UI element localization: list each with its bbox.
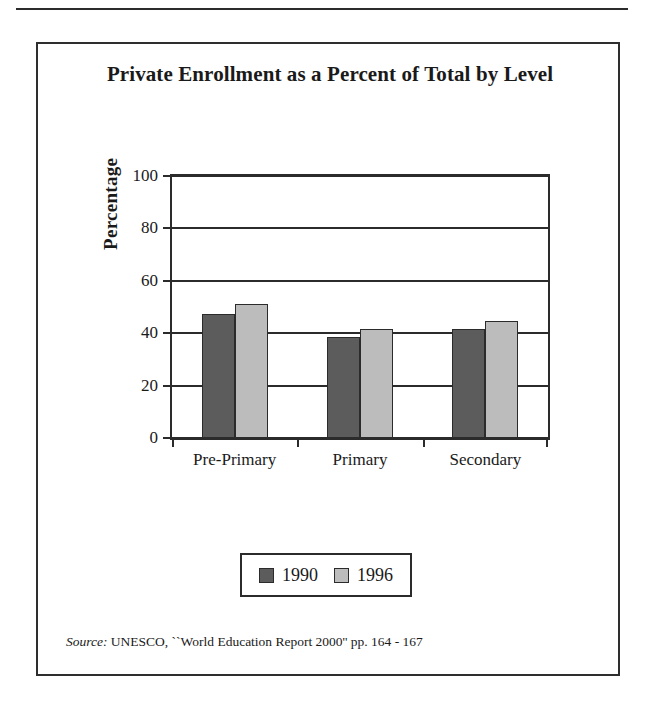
bar-pre-primary-1990	[202, 314, 235, 438]
chart-title: Private Enrollment as a Percent of Total…	[98, 60, 562, 88]
source-text: UNESCO, ``World Education Report 2000'' …	[111, 634, 423, 649]
y-tick-40	[163, 332, 172, 334]
legend-label-1996: 1996	[357, 566, 393, 584]
x-tick-end	[546, 438, 548, 447]
bar-primary-1996	[360, 329, 393, 438]
x-tick-0	[172, 438, 174, 447]
legend-swatch-icon-1996	[334, 568, 349, 583]
bars-layer	[172, 176, 548, 438]
y-tick-label-20: 20	[141, 376, 158, 396]
y-tick-100	[163, 175, 172, 177]
y-tick-label-40: 40	[141, 323, 158, 343]
bar-secondary-1996	[485, 321, 518, 438]
plot-area: 100806040200 Pre-PrimaryPrimarySecondary	[170, 174, 550, 440]
bar-primary-1990	[327, 337, 360, 438]
y-tick-60	[163, 280, 172, 282]
y-tick-80	[163, 227, 172, 229]
y-tick-label-100: 100	[133, 166, 159, 186]
x-category-label-secondary: Secondary	[449, 450, 521, 470]
x-category-label-pre-primary: Pre-Primary	[193, 450, 276, 470]
y-tick-label-0: 0	[150, 428, 159, 448]
chart-legend: 1990 1996	[240, 553, 412, 597]
y-axis-title: Percentage	[100, 158, 122, 250]
x-category-label-primary: Primary	[333, 450, 388, 470]
y-tick-label-80: 80	[141, 218, 158, 238]
x-tick-2	[423, 438, 425, 447]
legend-label-1990: 1990	[282, 566, 318, 584]
y-tick-20	[163, 385, 172, 387]
source-prefix: Source:	[66, 634, 107, 649]
legend-swatch-icon-1990	[259, 568, 274, 583]
bar-pre-primary-1996	[235, 304, 268, 438]
y-tick-0	[163, 437, 172, 439]
bar-secondary-1990	[452, 329, 485, 438]
page-top-rule	[16, 8, 628, 10]
source-note: Source: UNESCO, ``World Education Report…	[66, 634, 423, 650]
y-tick-label-60: 60	[141, 271, 158, 291]
x-tick-1	[297, 438, 299, 447]
figure-frame: Private Enrollment as a Percent of Total…	[36, 42, 620, 676]
legend-item-1990: 1990	[259, 566, 318, 584]
legend-item-1996: 1996	[334, 566, 393, 584]
